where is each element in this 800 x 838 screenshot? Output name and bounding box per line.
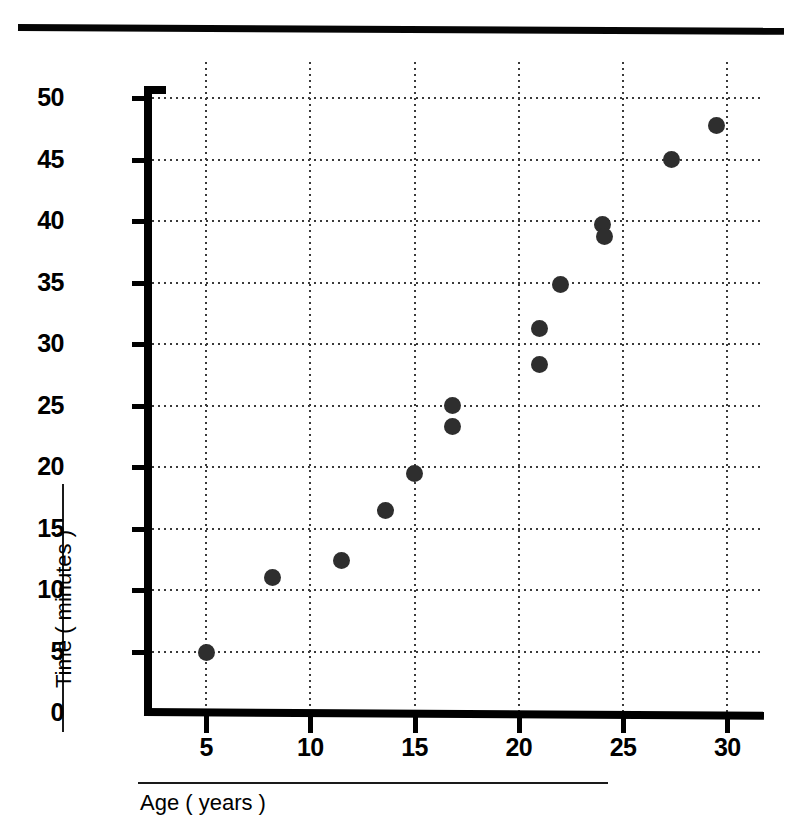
y-axis-tick-label: 15 — [20, 516, 64, 541]
y-axis-tick-label: 50 — [20, 85, 64, 110]
y-axis-tick — [132, 650, 148, 655]
x-axis-tick-label: 30 — [697, 735, 757, 760]
x-axis-title-rule — [138, 782, 608, 784]
x-axis-title: Age ( years ) — [140, 792, 266, 814]
x-axis-tick-label: 10 — [280, 735, 340, 760]
gridline-horizontal — [140, 466, 760, 468]
y-axis-tick — [132, 281, 148, 286]
x-axis-tick — [517, 716, 522, 733]
gridline-horizontal — [140, 343, 760, 345]
x-axis-tick-label: 5 — [176, 735, 236, 760]
data-point — [198, 644, 215, 661]
x-axis-tick-label: 25 — [593, 735, 653, 760]
y-axis-tick — [132, 404, 148, 409]
gridline-horizontal — [140, 220, 760, 222]
gridline-horizontal — [140, 282, 760, 284]
y-axis-tick — [132, 527, 148, 532]
x-axis-tick — [621, 716, 626, 733]
data-point — [663, 151, 680, 168]
x-axis-tick — [308, 716, 313, 733]
gridline-horizontal — [140, 589, 760, 591]
gridline-horizontal — [140, 97, 760, 99]
x-axis-tick — [725, 716, 730, 733]
y-axis-tick — [132, 588, 148, 593]
y-axis-tick-label: 30 — [20, 331, 64, 356]
y-axis-tick-label: 35 — [20, 270, 64, 295]
gridline-horizontal — [140, 651, 760, 653]
y-axis-tick — [132, 158, 148, 163]
scatter-chart-figure: Time ( minutes ) Age ( years ) 510152025… — [0, 0, 800, 838]
y-axis-tick-label: 5 — [20, 639, 64, 664]
data-point — [708, 117, 725, 134]
x-axis-tick — [204, 716, 209, 733]
y-axis-tick-label: 20 — [20, 454, 64, 479]
y-axis-line — [144, 86, 152, 716]
x-axis-tick-label: 15 — [385, 735, 445, 760]
y-axis-tick — [132, 465, 148, 470]
data-point — [444, 397, 461, 414]
y-axis-tick — [132, 96, 148, 101]
y-axis-top-cap — [144, 86, 166, 94]
x-axis-tick — [413, 716, 418, 733]
data-point — [444, 418, 461, 435]
data-point — [377, 502, 394, 519]
y-axis-tick-label: 25 — [20, 393, 64, 418]
y-axis-tick-label: 40 — [20, 208, 64, 233]
y-axis-tick — [132, 342, 148, 347]
y-axis-tick — [132, 219, 148, 224]
data-point — [531, 320, 548, 337]
data-point — [333, 552, 350, 569]
data-point — [406, 465, 423, 482]
y-axis-tick-label: 45 — [20, 147, 64, 172]
gridline-horizontal — [140, 528, 760, 530]
x-axis-tick-label: 20 — [489, 735, 549, 760]
y-axis-tick-label: 0 — [20, 700, 64, 725]
y-axis-tick-label: 10 — [20, 577, 64, 602]
